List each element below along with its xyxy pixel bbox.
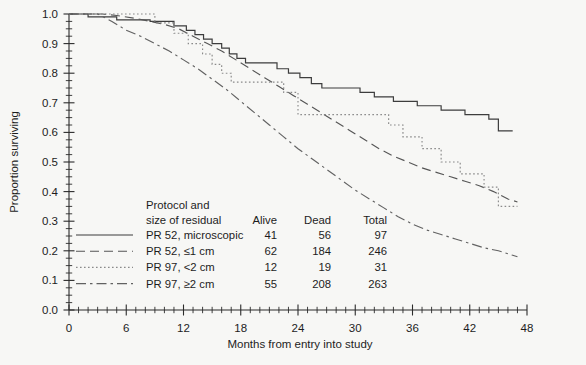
- legend-row-label: PR 97, <2 cm: [146, 261, 215, 273]
- legend-row-dead: 19: [318, 261, 331, 273]
- x-tick-label: 24: [292, 322, 305, 334]
- survival-curve-1: [69, 14, 517, 202]
- legend-header-line2: size of residual: [146, 214, 221, 226]
- x-axis-tick-labels: 0612182430364248: [66, 322, 534, 334]
- survival-chart-figure: 0.00.10.20.30.40.50.60.70.80.91.0 061218…: [0, 0, 586, 365]
- y-axis-title: Proportion surviving: [8, 111, 20, 213]
- legend-row-total: 263: [368, 278, 387, 290]
- y-axis-tick-labels: 0.00.10.20.30.40.50.60.70.80.91.0: [42, 8, 59, 316]
- x-tick-label: 6: [123, 322, 129, 334]
- x-tick-label: 42: [463, 322, 476, 334]
- legend-row-label: PR 97, ≥2 cm: [146, 278, 214, 290]
- legend-row-alive: 62: [264, 245, 277, 257]
- x-tick-label: 48: [521, 322, 534, 334]
- y-tick-label: 0.6: [42, 126, 58, 138]
- legend-row-alive: 12: [264, 261, 277, 273]
- y-tick-label: 1.0: [42, 8, 58, 20]
- survival-curve-3: [69, 14, 517, 257]
- y-tick-label: 0.1: [42, 274, 58, 286]
- y-tick-label: 0.2: [42, 245, 58, 257]
- y-tick-label: 0.4: [42, 186, 59, 198]
- legend-column-total: Total: [363, 214, 387, 226]
- legend-row-dead: 184: [312, 245, 331, 257]
- x-tick-label: 18: [234, 322, 247, 334]
- plot-svg: 0.00.10.20.30.40.50.60.70.80.91.0 061218…: [0, 0, 586, 365]
- y-tick-label: 0.3: [42, 215, 58, 227]
- y-tick-label: 0.8: [42, 67, 58, 79]
- x-axis-title: Months from entry into study: [227, 338, 372, 350]
- x-tick-label: 0: [66, 322, 72, 334]
- survival-curve-0: [69, 14, 513, 131]
- legend-row-alive: 41: [264, 229, 277, 241]
- y-tick-label: 0.0: [42, 304, 58, 316]
- legend-row-total: 246: [368, 245, 387, 257]
- legend: Protocol and size of residual Alive Dead…: [76, 199, 387, 290]
- legend-row-dead: 56: [318, 229, 331, 241]
- legend-row-label: PR 52, ≤1 cm: [146, 245, 214, 257]
- survival-curves: [69, 14, 517, 257]
- legend-row-alive: 55: [264, 278, 277, 290]
- x-tick-label: 12: [177, 322, 190, 334]
- legend-row-total: 97: [374, 229, 387, 241]
- x-tick-label: 30: [349, 322, 362, 334]
- legend-rows: PR 52, microscopic415697PR 52, ≤1 cm6218…: [76, 229, 387, 290]
- y-tick-label: 0.5: [42, 156, 58, 168]
- legend-row-label: PR 52, microscopic: [146, 229, 244, 241]
- legend-row-dead: 208: [312, 278, 331, 290]
- legend-column-alive: Alive: [253, 214, 278, 226]
- legend-column-dead: Dead: [304, 214, 331, 226]
- y-tick-label: 0.7: [42, 97, 58, 109]
- y-tick-label: 0.9: [42, 38, 58, 50]
- x-tick-label: 36: [406, 322, 419, 334]
- legend-row-total: 31: [374, 261, 387, 273]
- legend-header-line1: Protocol and: [146, 199, 209, 211]
